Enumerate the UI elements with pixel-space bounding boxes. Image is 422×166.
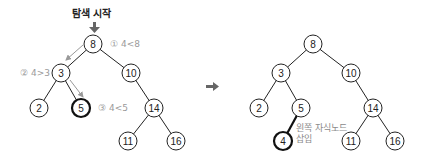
tree-node: 14 xyxy=(367,103,379,114)
step-2-note: ② 4>3 xyxy=(20,68,50,78)
tree-node: 8 xyxy=(310,39,316,50)
step-1-note: ① 4<8 xyxy=(110,39,140,49)
tree-node: 8 xyxy=(90,39,96,50)
tree-node-highlighted: 5 xyxy=(78,103,84,114)
tree-node: 16 xyxy=(389,136,401,147)
search-tree-nodes xyxy=(30,35,185,150)
tree-node: 3 xyxy=(278,68,284,79)
tree-node: 2 xyxy=(256,103,262,114)
tree-node: 3 xyxy=(58,68,64,79)
insert-note: 왼쪽 자식노드 삽입 xyxy=(296,123,347,145)
step-3-note: ③ 4<5 xyxy=(98,103,128,113)
tree-node: 14 xyxy=(148,103,160,114)
tree-node: 11 xyxy=(346,136,357,147)
insert-note-line2: 삽입 xyxy=(296,134,347,145)
tree-node: 11 xyxy=(123,136,134,147)
tree-node-inserted: 4 xyxy=(280,136,286,147)
insert-note-line1: 왼쪽 자식노드 xyxy=(296,123,347,134)
tree-node: 10 xyxy=(125,68,137,79)
search-tree-edges xyxy=(39,44,176,141)
start-arrow-icon xyxy=(89,22,100,33)
transition-arrow-icon xyxy=(206,82,219,91)
tree-node: 16 xyxy=(170,136,182,147)
bst-insertion-diagram: 8 3 10 2 5 14 11 16 8 3 10 2 xyxy=(0,0,422,166)
search-start-title: 탐색 시작 xyxy=(72,5,111,20)
tree-node: 5 xyxy=(298,103,304,114)
tree-node: 2 xyxy=(36,103,42,114)
tree-node: 10 xyxy=(345,68,357,79)
